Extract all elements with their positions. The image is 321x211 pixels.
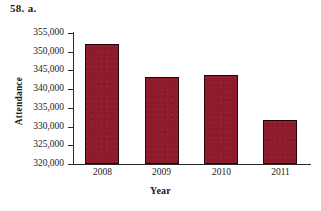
y-tick-mark	[68, 70, 73, 71]
bar-2011	[263, 120, 297, 164]
y-tick-mark	[68, 127, 73, 128]
problem-number-label: 58. a.	[10, 2, 37, 14]
x-axis-line	[73, 164, 311, 165]
y-tick-label: 340,000	[33, 84, 64, 94]
y-tick-mark	[68, 164, 73, 165]
y-tick-label: 350,000	[33, 47, 64, 57]
y-tick-mark	[68, 89, 73, 90]
y-tick-label: 330,000	[33, 122, 64, 132]
y-tick-label: 345,000	[33, 65, 64, 75]
x-tick-label-2011: 2011	[251, 167, 310, 177]
bar-2009	[145, 77, 179, 164]
y-tick-mark	[68, 52, 73, 53]
y-axis-line	[73, 32, 74, 165]
x-axis-title: Year	[0, 185, 321, 196]
y-tick-label: 335,000	[33, 103, 64, 113]
bar-chart-figure: 58. a. Attendance 355,000350,000345,0003…	[0, 0, 321, 211]
y-tick-label: 355,000	[33, 28, 64, 38]
bar-2010	[204, 75, 238, 164]
y-tick-mark	[68, 108, 73, 109]
x-tick-label-2009: 2009	[132, 167, 191, 177]
y-tick-label: 325,000	[33, 140, 64, 150]
y-tick-mark	[68, 145, 73, 146]
bar-2008	[85, 44, 119, 164]
y-tick-mark	[68, 33, 73, 34]
y-axis-title: Attendance	[12, 62, 26, 142]
x-tick-label-2008: 2008	[73, 167, 132, 177]
y-tick-label: 320,000	[33, 159, 64, 169]
x-tick-label-2010: 2010	[192, 167, 251, 177]
y-axis-title-text: Attendance	[14, 61, 24, 141]
